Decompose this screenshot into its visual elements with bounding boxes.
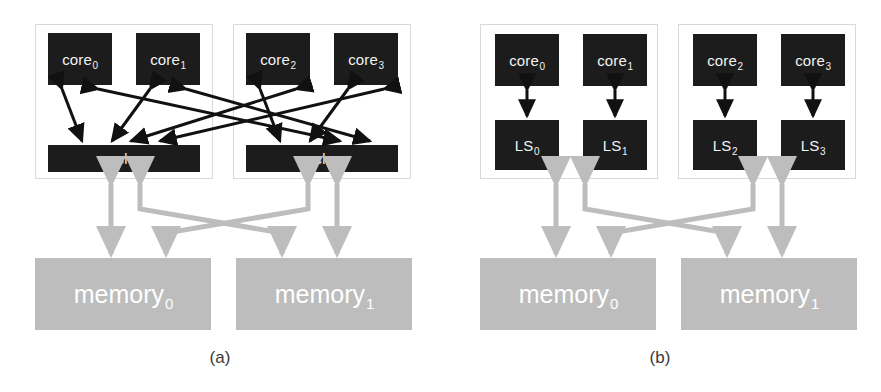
b-memory-0-subscript: 0 [610,295,618,312]
a-link-group0-memory1 [140,184,282,254]
b-caption: (b) [440,348,880,368]
a-core-1-subscript: 1 [181,60,187,71]
b-memory-0-label: memory [519,280,609,308]
b-core-3-subscript: 3 [826,61,832,72]
a-cache-1-label: cache [300,151,338,167]
b-ls-1-label: LS [603,137,622,154]
b-ls-1: LS1 [583,120,647,170]
b-core-2: core2 [693,34,757,86]
a-cache-0: cache0 [48,145,200,172]
a-cache-memory-links [111,184,337,254]
b-ls-2-label: LS [713,137,732,154]
panel-a: core0 core1 core2 core3 cache0 cache1 me… [0,0,440,392]
b-group-memory-links [556,184,782,254]
b-core-1-label: core [597,52,627,69]
b-core-0-label: core [509,52,539,69]
a-core-0-label: core [62,51,92,68]
a-memory-1-label: memory [275,280,365,308]
b-ls-0: LS0 [495,120,559,170]
b-core-1-subscript: 1 [628,61,634,72]
panel-b: core0 core1 LS0 LS1 core2 core3 LS2 LS3 … [440,0,880,392]
b-ls-0-label: LS [515,137,534,154]
a-core-3-label: core [348,51,378,68]
b-ls-2: LS2 [693,120,757,170]
a-core-0: core0 [48,33,112,85]
b-ls-1-subscript: 1 [622,146,628,157]
b-core-3: core3 [781,34,845,86]
b-core-3-label: core [795,52,825,69]
a-cache-1-subscript: 1 [339,159,345,170]
a-link-group1-memory0 [166,184,308,254]
a-cache-1: cache1 [246,145,398,172]
a-core-1: core1 [136,33,200,85]
a-core-1-label: core [150,51,180,68]
a-cache-0-label: cache [102,151,140,167]
a-memory-0: memory0 [35,258,211,330]
figure-canvas: core0 core1 core2 core3 cache0 cache1 me… [0,0,881,392]
a-memory-0-subscript: 0 [165,295,173,312]
a-core-3-subscript: 3 [379,60,385,71]
b-link-group0-memory1 [585,184,727,254]
a-core-2: core2 [246,33,310,85]
a-cache-0-subscript: 0 [141,159,147,170]
b-ls-3-subscript: 3 [820,146,826,157]
b-link-group1-memory0 [611,184,753,254]
a-memory-1: memory1 [236,258,412,330]
b-ls-0-subscript: 0 [534,146,540,157]
b-ls-3: LS3 [781,120,845,170]
b-memory-1-subscript: 1 [811,295,819,312]
b-memory-1: memory1 [681,258,857,330]
b-ls-3-label: LS [801,137,820,154]
b-memory-0: memory0 [480,258,656,330]
b-core-2-subscript: 2 [738,61,744,72]
a-core-0-subscript: 0 [93,60,99,71]
a-caption: (a) [0,348,440,368]
a-core-2-subscript: 2 [291,60,297,71]
a-memory-0-label: memory [74,280,164,308]
a-core-3: core3 [334,33,398,85]
a-core-2-label: core [260,51,290,68]
b-core-1: core1 [583,34,647,86]
b-memory-1-label: memory [720,280,810,308]
a-memory-1-subscript: 1 [366,295,374,312]
b-ls-2-subscript: 2 [732,146,738,157]
b-core-0: core0 [495,34,559,86]
b-core-0-subscript: 0 [540,61,546,72]
b-core-2-label: core [707,52,737,69]
